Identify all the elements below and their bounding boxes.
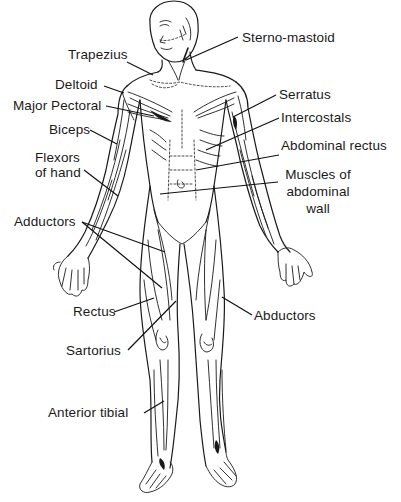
label-sterno-mastoid: Sterno-mastoid: [242, 30, 335, 45]
torso-drawing: [128, 92, 236, 244]
shoulders-drawing: [127, 70, 236, 88]
label-muscles-of-abdominal-wall-line2: abdominal: [282, 184, 354, 199]
leader-abdominal-rectus: [196, 155, 279, 170]
leader-rectus: [114, 298, 154, 312]
leader-flexors-of-hand: [84, 170, 118, 196]
label-anterior-tibial: Anterior tibial: [48, 405, 128, 420]
left-leg-drawing: [140, 186, 180, 493]
right-leg-drawing: [184, 186, 237, 487]
label-sartorius: Sartorius: [66, 343, 121, 358]
leader-anterior-tibial: [144, 401, 164, 413]
leader-adductors-2: [82, 222, 162, 288]
label-biceps: Biceps: [49, 122, 90, 137]
label-adductors: Adductors: [14, 214, 76, 229]
label-major-pectoral: Major Pectoral: [13, 98, 101, 113]
label-flexors-of-hand-line2: of hand: [35, 165, 81, 180]
leader-deltoid: [104, 86, 124, 93]
leader-trapezius: [127, 62, 153, 75]
human-figure-illustration: [0, 0, 401, 502]
leader-intercostals: [206, 118, 279, 150]
label-serratus: Serratus: [279, 87, 331, 102]
label-muscles-of-abdominal-wall-line3: wall: [282, 201, 354, 216]
leader-serratus: [233, 95, 276, 117]
label-intercostals: Intercostals: [281, 110, 351, 125]
label-trapezius: Trapezius: [68, 47, 128, 62]
label-abdominal-rectus: Abdominal rectus: [281, 138, 387, 153]
neck-drawing: [158, 48, 196, 80]
head-drawing: [150, 1, 198, 62]
label-abductors: Abductors: [254, 308, 316, 323]
muscle-diagram: Sterno-mastoid Trapezius Deltoid Major P…: [0, 0, 401, 502]
leader-sartorius: [128, 301, 176, 350]
label-muscles-of-abdominal-wall-line1: Muscles of: [282, 167, 354, 182]
left-arm-drawing: [53, 86, 140, 296]
label-flexors-of-hand-line1: Flexors: [35, 150, 80, 165]
leader-abductors: [222, 297, 252, 315]
label-rectus: Rectus: [73, 304, 116, 319]
label-deltoid: Deltoid: [55, 77, 98, 92]
